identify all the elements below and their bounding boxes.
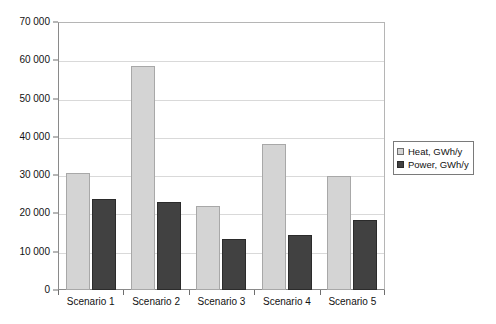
legend-swatch-heat — [397, 148, 404, 155]
x-tick-mark — [320, 290, 321, 295]
y-axis: 010 00020 00030 00040 00050 00060 00070 … — [0, 22, 58, 290]
legend-label: Heat, GWh/y — [408, 146, 462, 157]
x-tick-label: Scenario 3 — [198, 296, 246, 308]
legend-label: Power, GWh/y — [408, 159, 469, 170]
plot-area — [58, 22, 385, 290]
gridline — [59, 214, 384, 215]
gridlines — [59, 23, 384, 289]
legend-swatch-power — [397, 161, 404, 168]
legend-item: Power, GWh/y — [397, 158, 469, 171]
y-tick-label: 10 000 — [19, 247, 50, 257]
x-tick-label: Scenario 2 — [132, 296, 180, 308]
x-tick-label: Scenario 4 — [263, 296, 311, 308]
y-tick-label: 0 — [44, 285, 50, 295]
gridline — [59, 253, 384, 254]
x-tick-label: Scenario 1 — [67, 296, 115, 308]
y-tick-label: 50 000 — [19, 94, 50, 104]
x-tick-label: Scenario 5 — [328, 296, 376, 308]
legend-item: Heat, GWh/y — [397, 145, 469, 158]
gridline — [59, 100, 384, 101]
y-tick-label: 20 000 — [19, 208, 50, 218]
y-tick-label: 30 000 — [19, 170, 50, 180]
y-tick-label: 40 000 — [19, 132, 50, 142]
x-tick-mark — [123, 290, 124, 295]
bar-chart: 010 00020 00030 00040 00050 00060 00070 … — [0, 0, 496, 324]
chart-legend: Heat, GWh/yPower, GWh/y — [393, 141, 474, 175]
gridline — [59, 138, 384, 139]
y-tick-label: 60 000 — [19, 55, 50, 65]
x-axis: Scenario 1Scenario 2Scenario 3Scenario 4… — [58, 296, 385, 312]
y-tick-label: 70 000 — [19, 17, 50, 27]
x-tick-mark — [58, 290, 59, 295]
gridline — [59, 176, 384, 177]
x-tick-mark — [384, 290, 385, 295]
x-tick-mark — [254, 290, 255, 295]
x-tick-mark — [189, 290, 190, 295]
gridline — [59, 61, 384, 62]
